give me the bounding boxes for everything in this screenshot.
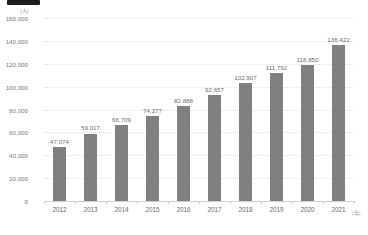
bar[interactable]	[301, 65, 314, 201]
redaction-block	[7, 0, 40, 5]
x-axis-tick-label: 2017	[207, 206, 221, 213]
x-axis-tick-mark	[230, 201, 231, 204]
y-axis-tick-label: 100,000	[0, 83, 28, 90]
gridline	[44, 18, 354, 19]
bar[interactable]	[84, 134, 97, 202]
x-axis-tick-mark	[75, 201, 76, 204]
x-axis-tick-label: 2012	[52, 206, 66, 213]
x-axis-tick-mark	[292, 201, 293, 204]
plot-area: 020,00040,00060,00080,000100,000120,0001…	[44, 18, 354, 201]
gridline	[44, 41, 354, 42]
bar[interactable]	[270, 73, 283, 201]
y-axis-unit-label: (人)	[20, 7, 28, 14]
bar-value-label: 82,888	[174, 97, 193, 104]
x-axis-tick-label: 2020	[300, 206, 314, 213]
bar-value-label: 47,074	[50, 138, 69, 145]
x-axis-unit-label: (年)	[352, 209, 360, 216]
x-axis-tick-mark	[137, 201, 138, 204]
y-axis-tick-label: 20,000	[0, 175, 28, 182]
bar-value-label: 111,792	[266, 64, 287, 71]
x-axis-tick-mark	[44, 201, 45, 204]
x-axis-tick-mark	[354, 201, 355, 204]
bar-value-label: 102,907	[234, 74, 256, 81]
bar-value-label: 66,709	[112, 116, 131, 123]
bar-value-label: 74,277	[143, 107, 162, 114]
bar[interactable]	[239, 83, 252, 201]
y-axis-tick-label: 120,000	[0, 60, 28, 67]
y-axis-tick-label: 60,000	[0, 129, 28, 136]
bar-value-label: 136,422	[327, 36, 349, 43]
x-axis-tick-mark	[323, 201, 324, 204]
bar-value-label: 92,657	[205, 86, 224, 93]
y-axis-tick-label: 40,000	[0, 152, 28, 159]
bar[interactable]	[115, 125, 128, 201]
y-axis-tick-label: 0	[0, 198, 28, 205]
x-axis-tick-mark	[199, 201, 200, 204]
bar[interactable]	[208, 95, 221, 201]
x-axis-tick-label: 2014	[114, 206, 128, 213]
x-axis-tick-mark	[106, 201, 107, 204]
x-axis-tick-mark	[168, 201, 169, 204]
y-axis-tick-label: 140,000	[0, 37, 28, 44]
bar[interactable]	[177, 106, 190, 201]
x-axis-tick-label: 2015	[145, 206, 159, 213]
bar-value-label: 118,850	[297, 56, 319, 63]
bar[interactable]	[53, 147, 66, 201]
x-axis-tick-label: 2016	[176, 206, 190, 213]
x-axis-tick-label: 2013	[83, 206, 97, 213]
y-axis-tick-label: 160,000	[0, 15, 28, 22]
x-axis-tick-label: 2018	[238, 206, 252, 213]
bar[interactable]	[332, 45, 345, 201]
x-axis-tick-label: 2019	[269, 206, 283, 213]
y-axis-tick-label: 80,000	[0, 106, 28, 113]
bar-chart: (人) 020,00040,00060,00080,000100,000120,…	[0, 0, 368, 235]
x-axis-tick-mark	[261, 201, 262, 204]
bar[interactable]	[146, 116, 159, 201]
bar-value-label: 59,017	[81, 124, 100, 131]
x-axis-tick-label: 2021	[331, 206, 345, 213]
